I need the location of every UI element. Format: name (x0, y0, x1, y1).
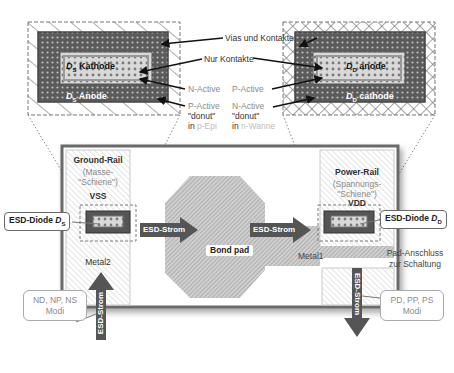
n-active-right-label: N-Active (232, 102, 264, 111)
power-rail-title: Power-Rail (320, 168, 394, 177)
bond-pad-label: Bond pad (206, 245, 253, 256)
ground-rail-title: Ground-Rail (66, 156, 130, 165)
nur-kontakte-label: Nur Kontakte (204, 55, 254, 64)
p-active-left-label: P-Active (188, 102, 220, 111)
donut-right-label: "donut" (232, 112, 259, 121)
in-right: in n-Wanne (232, 122, 275, 131)
vias-und-kontakte-label: Vias und Kontakte (225, 34, 294, 43)
ds-kathode-label: DS Kathode (66, 62, 115, 73)
donut-left-label: "donut" (188, 112, 215, 121)
power-rail-sub1: (Spannungs- (320, 180, 394, 189)
ground-rail-sub1: (Masse- (66, 168, 130, 177)
esd-strom-left-v-label: ESD-Strom (97, 290, 105, 336)
esd-strom-right-label: ESD-Strom (253, 226, 295, 234)
pad-anschluss-label-1: Pad-Anschluss (380, 249, 450, 258)
metal2-label: Metal2 (66, 258, 130, 267)
dd-anode-label: DD anode (346, 62, 386, 73)
modes-right-callout: PD, PP, PSModi (380, 290, 444, 321)
pad-anschluss-label-2: zur Schaltung (380, 260, 450, 269)
esd-strom-right-v-label: ESD-Strom (353, 271, 361, 317)
esd-diode-ds-callout: ESD-Diode DS (4, 212, 70, 231)
metal1-label: Metal1 (298, 252, 324, 261)
ds-anode-label: DS Anode (66, 92, 107, 103)
p-active-right-label: P-Active (232, 85, 264, 94)
n-active-left-label: N-Active (188, 85, 220, 94)
esd-diode-dd-callout: ESD-Diode DD (380, 210, 447, 229)
vss-label: VSS (66, 192, 130, 201)
modes-left-callout: ND, NP, NSModi (23, 290, 87, 321)
dd-cathode-label: DD cathode (346, 92, 394, 103)
in-left: in p-Epi (188, 122, 217, 131)
ground-rail-sub2: "Schiene") (66, 178, 130, 187)
vdd-label: VDD (335, 199, 379, 208)
esd-strom-left-label: ESD-Strom (143, 226, 185, 234)
